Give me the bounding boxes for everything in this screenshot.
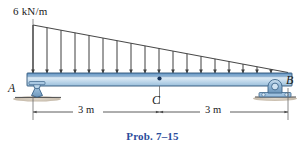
support-label-a: A	[8, 82, 15, 94]
dimension-group	[33, 88, 288, 120]
dimension-label-right: 3 m	[205, 105, 221, 116]
support-right-bolt-left	[262, 93, 265, 96]
support-right-pin-circle	[272, 83, 279, 90]
figure-caption: Prob. 7–15	[0, 130, 305, 142]
dimension-label-left: 3 m	[78, 105, 94, 116]
support-label-b: B	[286, 74, 293, 86]
midpoint-marker-c	[157, 76, 161, 80]
distributed-load-group	[33, 19, 288, 73]
support-left-cap-plate	[29, 82, 45, 85]
load-arrow-set	[33, 25, 271, 73]
load-magnitude-label: 6 kN/m	[13, 6, 48, 17]
beam-diagram-figure: 6 kN/m A B C 3 m 3 m Prob. 7–15	[0, 0, 305, 150]
load-hypotenuse-line	[33, 25, 288, 73]
midpoint-label-c: C	[152, 94, 160, 106]
beam-diagram-svg	[0, 0, 305, 150]
